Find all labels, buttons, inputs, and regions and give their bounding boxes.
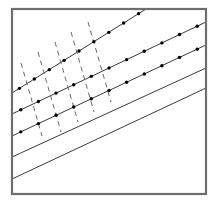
line-dot-marker: [37, 122, 40, 125]
line-dot-marker: [92, 40, 95, 43]
line-dot-marker: [107, 31, 110, 34]
line-dot-marker: [125, 81, 128, 84]
line-dot-marker: [195, 24, 198, 27]
line-dot-marker: [72, 83, 75, 86]
line-dot-marker: [72, 105, 75, 108]
line-dot-marker: [143, 50, 146, 53]
line-dot-marker: [19, 108, 22, 111]
line-dot-marker: [77, 49, 80, 52]
line-dot-marker: [19, 130, 22, 133]
line-dot-marker: [37, 100, 40, 103]
line-dot-marker: [122, 21, 125, 24]
line-dot-marker: [143, 72, 146, 75]
line-art-figure: [0, 0, 217, 204]
line-dot-marker: [54, 114, 57, 117]
line-dot-marker: [48, 68, 51, 71]
line-dot-marker: [125, 58, 128, 61]
line-dot-marker: [160, 64, 163, 67]
line-dot-marker: [107, 89, 110, 92]
line-dot-marker: [195, 47, 198, 50]
line-dot-marker: [160, 41, 163, 44]
line-dot-marker: [90, 97, 93, 100]
line-dot-marker: [90, 75, 93, 78]
line-dot-marker: [18, 87, 21, 90]
line-dot-marker: [54, 91, 57, 94]
line-dot-marker: [178, 56, 181, 59]
line-dot-marker: [178, 33, 181, 36]
figure-container: [0, 0, 217, 204]
line-dot-marker: [33, 77, 36, 80]
line-dot-marker: [107, 66, 110, 69]
line-dot-marker: [137, 12, 140, 15]
line-dot-marker: [62, 59, 65, 62]
